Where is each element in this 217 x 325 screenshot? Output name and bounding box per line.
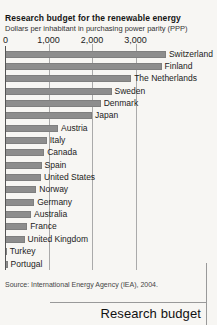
source-note: Source: International Energy Agency (IEA… [5, 281, 212, 288]
bar-label: Denmark [104, 99, 138, 108]
bar-row: Spain [5, 159, 212, 171]
bar [5, 223, 27, 230]
bar-label: Italy [50, 136, 66, 145]
bar-row: Australia [5, 208, 212, 220]
bar [5, 149, 44, 156]
bar [5, 100, 101, 107]
bar-row: United Kingdom [5, 233, 212, 245]
bar-label: United Kingdom [28, 235, 88, 244]
chart-subtitle: Dollars per inhabitant in purchasing pow… [5, 24, 212, 33]
x-axis: 01,0002,0003,000 [5, 34, 212, 48]
bar [5, 236, 25, 243]
bar-row: Norway [5, 184, 212, 196]
bar [5, 51, 166, 58]
chart-title: Research budget for the renewable energy [5, 13, 212, 23]
bar-label: Switzerland [169, 50, 213, 59]
bar-label: Australia [34, 210, 67, 219]
bar-label: France [30, 222, 56, 231]
section-label: Research budget [100, 306, 201, 321]
bar-label: Turkey [10, 247, 36, 256]
bar [5, 75, 131, 82]
bar-label: Portugal [11, 260, 43, 269]
renewable-energy-research-chart: Research budget for the renewable energy… [5, 13, 212, 288]
bar-row: France [5, 221, 212, 233]
bar-row: Finland [5, 60, 212, 72]
plot-area: SwitzerlandFinlandThe NetherlandsSwedenD… [5, 48, 212, 270]
bar [5, 137, 47, 144]
bar-row: United States [5, 171, 212, 183]
bar [5, 112, 92, 119]
bar-row: Switzerland [5, 48, 212, 60]
bar-row: Turkey [5, 246, 212, 258]
axis-baseline [5, 46, 6, 270]
page-edge-rule [206, 263, 207, 325]
x-tick-label: 0 [3, 35, 8, 45]
bar-row: Denmark [5, 97, 212, 109]
bar-row: Canada [5, 147, 212, 159]
bar-row: Sweden [5, 85, 212, 97]
bar-label: Finland [165, 62, 193, 71]
bar [5, 63, 162, 70]
bar-label: United States [44, 173, 95, 182]
bar [5, 162, 42, 169]
page: Research budget for the renewable energy… [0, 0, 217, 325]
bar-row: Germany [5, 196, 212, 208]
bar-label: Sweden [115, 87, 146, 96]
bar-label: Japan [95, 111, 118, 120]
bar [5, 186, 36, 193]
bar-row: Austria [5, 122, 212, 134]
bar [5, 125, 58, 132]
bar [5, 211, 31, 218]
bar-label: Germany [37, 198, 72, 207]
bar [5, 88, 112, 95]
bar-label: Austria [61, 124, 87, 133]
bar-row: The Netherlands [5, 73, 212, 85]
bar-label: The Netherlands [134, 74, 197, 83]
footer-rule [50, 302, 206, 303]
bar [5, 174, 41, 181]
bar-label: Canada [47, 148, 77, 157]
bar-row: Italy [5, 134, 212, 146]
bar-label: Norway [39, 185, 68, 194]
bar-row: Japan [5, 110, 212, 122]
bar [5, 199, 34, 206]
bar-label: Spain [45, 161, 67, 170]
bar-row: Portugal [5, 258, 212, 270]
